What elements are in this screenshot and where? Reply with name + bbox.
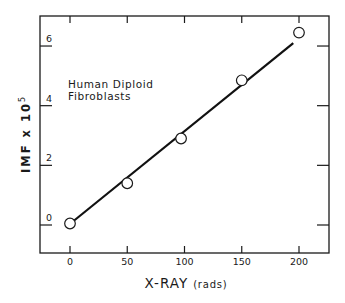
x-tick-label: 0 [67,256,73,267]
y-tick-label: 6 [46,33,52,44]
annotation-line-2: Fibroblasts [68,90,131,102]
x-tick-label: 200 [290,256,308,267]
tick-labels: 0501001502000246 [46,33,308,267]
x-tick-label: 100 [175,256,193,267]
data-point-marker [65,218,76,229]
data-point-marker [176,133,187,144]
x-tick-label: 150 [233,256,251,267]
y-axis-title: IMF x 105 [18,97,33,173]
x-axis-title-main: X-RAY [144,275,188,291]
fit-line [72,43,293,222]
annotation-line-1: Human Diploid [68,78,154,90]
y-axis-title-exponent: 5 [18,97,27,102]
x-tick-label: 50 [121,256,133,267]
y-tick-label: 4 [46,93,52,104]
y-tick-label: 0 [46,212,52,223]
x-axis-title: X-RAY(rads) [144,275,227,291]
x-axis-title-unit: (rads) [193,279,227,290]
data-point-marker [122,178,133,189]
data-point-marker [236,75,247,86]
chart-canvas: 0501001502000246 Human Diploid Fibroblas… [0,0,345,303]
y-tick-label: 2 [46,152,52,163]
data-point-marker [294,27,305,38]
y-axis-title-main: IMF x 10 [19,102,33,173]
